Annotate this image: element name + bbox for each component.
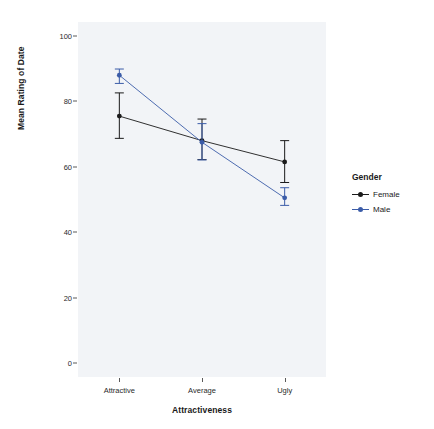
legend-item-label: Female [373, 190, 400, 199]
legend-item-female[interactable]: Female [352, 187, 432, 202]
y-tick-mark [73, 363, 77, 364]
point-line-marker [352, 188, 369, 201]
y-tick-mark [73, 232, 77, 233]
data-point [117, 73, 122, 78]
data-point [282, 195, 287, 200]
legend: Gender FemaleMale [352, 172, 432, 217]
y-tick-mark [73, 36, 77, 37]
point-line-marker [352, 203, 369, 216]
legend-items: FemaleMale [352, 187, 432, 217]
data-point [117, 114, 122, 119]
legend-item-label: Male [373, 205, 390, 214]
y-tick-mark [73, 166, 77, 167]
y-tick-mark [73, 297, 77, 298]
data-point [282, 159, 287, 164]
data-point [200, 140, 205, 145]
legend-item-male[interactable]: Male [352, 202, 432, 217]
line-chart: 100806040200 Mean Rating of Date Attract… [0, 0, 434, 429]
y-tick-mark [73, 101, 77, 102]
series-male [115, 69, 289, 205]
legend-title: Gender [352, 172, 432, 182]
